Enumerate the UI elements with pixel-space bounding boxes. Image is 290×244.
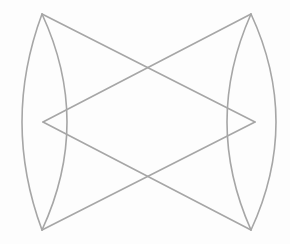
lens-diamond-figure (0, 0, 290, 244)
figure-canvas (0, 0, 290, 244)
right-lens-inner-curve (227, 14, 251, 230)
left-lens-inner-curve (42, 14, 67, 230)
left-lens-outer-curve (22, 14, 42, 230)
